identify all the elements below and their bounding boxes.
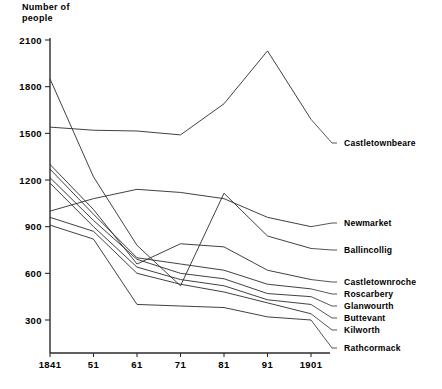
chart-canvas: Number of people 30060090012001500180021… [0, 0, 442, 389]
x-tick-label: 1841 [39, 359, 62, 370]
label-leader-line [311, 223, 332, 227]
series-label: Roscarbery [344, 289, 393, 299]
x-axis-ticks: 184151617181911901 [39, 353, 323, 370]
label-leader-line [311, 248, 332, 250]
series-label-leaders [311, 119, 337, 348]
x-tick-label: 51 [88, 359, 100, 370]
label-leader-line [311, 320, 332, 348]
label-leader-line [311, 280, 332, 282]
x-tick-label: 81 [218, 359, 230, 370]
series-label: Newmarket [344, 218, 392, 228]
label-leader-line [311, 119, 332, 143]
series-line [50, 217, 311, 313]
y-tick-label: 900 [25, 221, 42, 232]
y-tick-label: 1500 [19, 128, 42, 139]
series-label: Rathcormack [344, 343, 401, 353]
series-line [50, 79, 311, 286]
x-tick-label: 71 [175, 359, 187, 370]
y-tick-label: 1800 [19, 81, 42, 92]
y-axis-ticks: 3006009001200150018002100 [19, 35, 50, 326]
label-leader-line [311, 297, 332, 306]
series-lines [50, 51, 311, 320]
series-label: Glanwourth [344, 301, 394, 311]
x-tick-label: 1901 [300, 359, 323, 370]
label-leader-line [311, 289, 332, 294]
series-label: Buttevant [344, 313, 385, 323]
y-tick-label: 600 [25, 268, 42, 279]
y-tick-label: 300 [25, 315, 42, 326]
series-label: Castletownroche [344, 277, 416, 287]
x-tick-label: 91 [262, 359, 274, 370]
series-labels: CastletownbeareNewmarketBallincolligCast… [344, 138, 416, 353]
series-line [50, 189, 311, 226]
x-tick-label: 61 [131, 359, 143, 370]
series-line [50, 225, 311, 320]
series-label: Kilworth [344, 325, 380, 335]
series-label: Ballincollig [344, 245, 392, 255]
y-tick-label: 2100 [19, 35, 42, 46]
series-line [50, 51, 311, 135]
line-chart: 3006009001200150018002100 18415161718191… [0, 0, 442, 389]
y-tick-label: 1200 [19, 175, 42, 186]
series-label: Castletownbeare [344, 138, 416, 148]
